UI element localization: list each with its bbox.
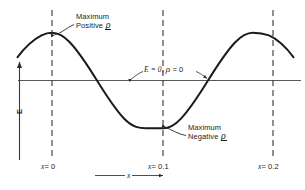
- y-axis-label: E: [15, 109, 24, 114]
- rho-symbol-negative: ρ: [221, 132, 227, 141]
- tick-label-x0: x= 0: [41, 162, 55, 171]
- tick-label-x02: x= 0.2: [258, 162, 279, 171]
- tick-label-x02-value: = 0.2: [261, 162, 278, 171]
- annotation-zero-field: E = 0, ρ = 0: [144, 65, 183, 74]
- annotation-max-negative-line2: Negative: [188, 132, 218, 141]
- annotation-max-negative-line1: Maximum: [188, 123, 221, 132]
- leader-max-negative: [166, 128, 186, 136]
- leader-center-right: [196, 72, 207, 79]
- tick-label-x0-value: = 0: [44, 162, 55, 171]
- annotation-max-positive-line1: Maximum: [76, 12, 109, 21]
- annotation-max-positive-line2: Positive: [76, 21, 103, 30]
- annotation-center-E: E = 0,: [144, 65, 164, 74]
- annotation-center-rho-value: = 0: [172, 65, 183, 74]
- rho-symbol-positive: ρ: [105, 21, 111, 30]
- tick-label-x01: x= 0.1: [148, 162, 169, 171]
- x-measure-label: x: [125, 171, 132, 180]
- wave-diagram: E Maximum Positive ρ Maximum Negative ρ …: [0, 0, 305, 190]
- rho-symbol-center: ρ: [166, 64, 170, 74]
- tick-label-x01-value: = 0.1: [151, 162, 168, 171]
- annotation-max-positive: Maximum Positive ρ: [76, 12, 111, 30]
- annotation-max-negative: Maximum Negative ρ: [188, 123, 227, 141]
- leader-center-left: [132, 72, 143, 79]
